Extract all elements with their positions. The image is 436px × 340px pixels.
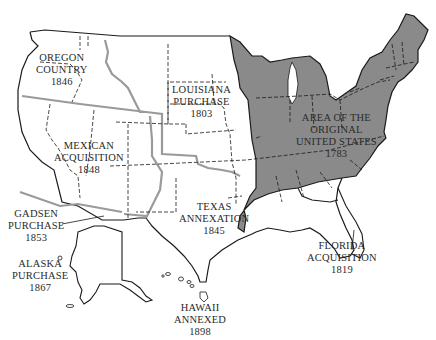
- label-gadsen: GADSENPURCHASE1853: [8, 208, 64, 244]
- hawaii-islands: [162, 273, 208, 303]
- gadsen-pointer: [62, 216, 104, 224]
- label-original-us: AREA OF THEORIGINALUNITED STATES1783: [296, 112, 377, 160]
- label-alaska: ALASKAPURCHASE1867: [12, 258, 68, 294]
- label-mexican: MEXICANACQUISITION1848: [54, 140, 124, 176]
- alaska-outline: [70, 226, 152, 304]
- label-texas: TEXASANNEXATION1845: [179, 201, 249, 237]
- label-hawaii: HAWAIIANNEXED1898: [174, 302, 226, 338]
- label-louisiana: LOUISIANAPURCHASE1803: [172, 84, 231, 120]
- label-oregon: OREGONCOUNTRY1846: [36, 52, 88, 88]
- label-florida: FLORIDAACQUISITION1819: [307, 240, 377, 276]
